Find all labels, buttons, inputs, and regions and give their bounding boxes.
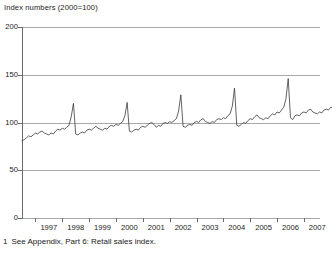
x-tick-label-2003: 2003 — [195, 224, 225, 232]
y-tick-label-0: 0 — [0, 214, 18, 222]
footnote: 1See Appendix, Part 6: Retail sales inde… — [3, 237, 156, 246]
x-tick-label-1998: 1998 — [61, 224, 91, 232]
y-tick-label-50: 50 — [0, 166, 18, 174]
x-tick-mark-2004 — [223, 218, 224, 222]
x-tick-mark-1999 — [89, 218, 90, 222]
series-line-retail-sales-index — [22, 42, 332, 140]
x-tick-mark-2006 — [277, 218, 278, 222]
y-tick-label-100: 100 — [0, 119, 18, 127]
footnote-number: 1 — [3, 237, 7, 246]
x-tick-mark-1998 — [62, 218, 63, 222]
x-tick-label-1999: 1999 — [88, 224, 118, 232]
y-tick-mark-0 — [18, 218, 22, 219]
x-tick-label-2006: 2006 — [275, 224, 305, 232]
x-tick-label-2007: 2007 — [302, 224, 332, 232]
x-tick-label-1997: 1997 — [34, 224, 64, 232]
x-tick-label-2005: 2005 — [249, 224, 279, 232]
y-tick-label-150: 150 — [0, 71, 18, 79]
y-tick-label-200: 200 — [0, 23, 18, 31]
x-tick-label-2000: 2000 — [114, 224, 144, 232]
x-tick-mark-2001 — [143, 218, 144, 222]
x-tick-label-2004: 2004 — [222, 224, 252, 232]
x-tick-label-2002: 2002 — [168, 224, 198, 232]
gridline-0 — [22, 218, 320, 219]
chart-plot-area — [22, 27, 320, 218]
x-tick-mark-2003 — [197, 218, 198, 222]
footnote-text: See Appendix, Part 6: Retail sales index… — [11, 237, 156, 246]
chart-axis-title: Index numbers (2000=100) — [4, 3, 98, 12]
x-tick-mark-2000 — [116, 218, 117, 222]
x-tick-mark-2007 — [304, 218, 305, 222]
x-tick-label-2001: 2001 — [141, 224, 171, 232]
x-tick-mark-1997 — [35, 218, 36, 222]
x-tick-mark-2002 — [170, 218, 171, 222]
x-tick-mark-2005 — [250, 218, 251, 222]
